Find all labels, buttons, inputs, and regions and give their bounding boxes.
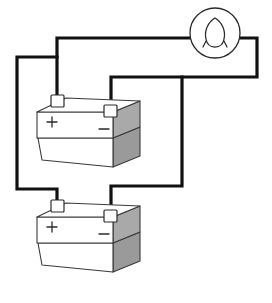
battery-bottom-positive-post-icon bbox=[51, 200, 64, 212]
lamp bbox=[190, 8, 240, 58]
lamp-bulb-icon bbox=[190, 8, 240, 58]
battery-top-lower-front-face bbox=[38, 138, 113, 167]
battery-bottom-negative-terminal bbox=[104, 210, 117, 222]
battery-bottom-lower-front-face bbox=[38, 243, 113, 272]
battery-top-negative-post-icon bbox=[104, 105, 117, 117]
battery-bottom bbox=[37, 200, 140, 272]
circuit-diagram bbox=[0, 0, 272, 303]
wire-lamp-left-to-top-positive bbox=[57, 38, 190, 98]
battery-top-positive-terminal bbox=[51, 95, 64, 107]
battery-top bbox=[37, 95, 140, 167]
battery-top-negative-terminal bbox=[104, 105, 117, 117]
battery-bottom-positive-terminal bbox=[51, 200, 64, 212]
battery-top-positive-post-icon bbox=[51, 95, 64, 107]
battery-top-upper-front-face bbox=[37, 112, 113, 138]
diagram-canvas bbox=[0, 0, 272, 303]
battery-bottom-upper-front-face bbox=[37, 217, 113, 243]
battery-bottom-negative-post-icon bbox=[104, 210, 117, 222]
